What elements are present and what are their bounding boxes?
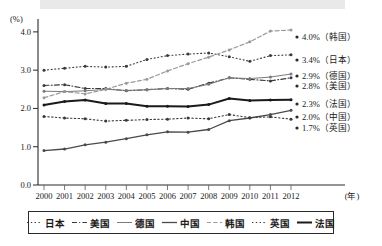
data-point-france [248, 99, 251, 102]
data-point-germany [125, 89, 128, 92]
x-tick-label: 2011 [262, 191, 279, 201]
x-tick-label: 2003 [97, 191, 114, 201]
data-point-japan [248, 60, 251, 63]
data-point-france [145, 105, 148, 108]
data-point-france [104, 102, 107, 105]
data-point-china [104, 141, 107, 144]
legend-item-label: 中国 [180, 216, 200, 230]
legend-item-美国[interactable]: 美国 [72, 216, 110, 230]
data-point-japan [145, 58, 148, 61]
data-point-japan [228, 55, 231, 58]
legend-item-中国[interactable]: 中国 [162, 216, 200, 230]
x-tick-label: 2002 [77, 191, 94, 201]
data-point-japan [207, 51, 210, 54]
series-lines [43, 28, 293, 152]
data-point-usa [269, 79, 272, 82]
line-chart: 4.0%（韩国）3.4%（日本）2.9%（德国）2.8%（美国）2.3%（法国）… [0, 0, 382, 246]
legend-item-英国[interactable]: 英国 [252, 216, 290, 230]
x-tick-label: 2006 [159, 191, 176, 201]
data-point-germany [269, 76, 272, 79]
data-point-japan [84, 65, 87, 68]
data-point-germany [145, 88, 148, 91]
legend-item-label: 美国 [90, 216, 110, 230]
data-point-uk [228, 113, 231, 116]
data-point-korea [145, 78, 148, 81]
legend-item-韩国[interactable]: 韩国 [207, 216, 245, 230]
data-point-uk [43, 115, 46, 118]
x-tick-label: 2000 [36, 191, 53, 201]
end-label: 2.3%（法国） [302, 98, 356, 109]
data-point-uk [269, 115, 272, 118]
data-point-korea [248, 40, 251, 43]
data-point-japan [43, 69, 46, 72]
x-tick-label: 2001 [56, 191, 73, 201]
data-point-germany [84, 89, 87, 92]
data-point-germany [187, 87, 190, 90]
end-label-marker [295, 126, 298, 129]
data-point-china [63, 148, 66, 151]
legend-item-法国[interactable]: 法国 [297, 216, 335, 230]
data-point-france [43, 104, 46, 107]
data-point-korea [187, 62, 190, 65]
data-point-germany [228, 76, 231, 79]
legend-item-日本[interactable]: 日本 [27, 216, 65, 230]
y-tick-label: 0.0 [20, 180, 31, 190]
end-label: 2.0%（中国） [302, 111, 356, 122]
data-point-china [145, 133, 148, 136]
data-point-france [207, 103, 210, 106]
data-point-japan [187, 53, 190, 56]
legend-swatch-dotted [252, 218, 267, 227]
x-tick-label: 2008 [200, 191, 217, 201]
data-point-china [187, 131, 190, 134]
data-point-germany [166, 87, 169, 90]
x-tick-label: 2005 [138, 191, 155, 201]
x-tick-label: 2007 [180, 191, 197, 201]
data-point-korea [104, 88, 107, 91]
legend-item-label: 英国 [270, 216, 290, 230]
data-point-china [125, 137, 128, 140]
data-point-korea [43, 96, 46, 99]
data-point-korea [125, 82, 128, 85]
data-point-china [43, 149, 46, 152]
y-tick-label: 2.0 [20, 103, 31, 113]
data-point-france [84, 99, 87, 102]
data-point-korea [63, 90, 66, 93]
data-point-germany [43, 90, 46, 93]
x-tick-label: 2012 [283, 191, 300, 201]
data-point-china [207, 128, 210, 131]
end-label-marker [295, 58, 298, 61]
data-point-uk [63, 117, 66, 120]
legend-item-label: 德国 [135, 216, 155, 230]
legend-swatch-dotted [27, 218, 42, 227]
legend-swatch-solid-thin [117, 218, 132, 227]
end-label: 1.7%（英国） [302, 122, 356, 133]
data-point-uk [187, 117, 190, 120]
data-point-usa [43, 84, 46, 87]
data-point-germany [248, 77, 251, 80]
data-point-korea [84, 92, 87, 95]
data-point-china [290, 109, 293, 112]
data-point-china [228, 119, 231, 122]
x-tick-label: 2004 [118, 191, 136, 201]
data-point-uk [84, 117, 87, 120]
legend: 日本美国德国中国韩国英国法国 [28, 211, 334, 234]
data-point-korea [166, 69, 169, 72]
y-tick-label: 4.0 [20, 27, 31, 37]
data-point-japan [166, 54, 169, 57]
data-point-uk [145, 118, 148, 121]
data-point-france [125, 102, 128, 105]
legend-swatch-solid-thick [297, 218, 312, 227]
data-point-japan [104, 66, 107, 69]
end-label: 2.9%（德国） [302, 70, 356, 81]
legend-item-label: 日本 [45, 216, 65, 230]
end-label: 4.0%（韩国） [302, 31, 356, 42]
data-point-china [84, 143, 87, 146]
x-axis-unit-label: (年) [345, 191, 360, 201]
data-point-korea [290, 28, 293, 31]
data-point-france [290, 98, 293, 101]
data-point-uk [166, 118, 169, 121]
legend-item-德国[interactable]: 德国 [117, 216, 155, 230]
end-label-marker [295, 115, 298, 118]
data-point-korea [269, 30, 272, 33]
data-point-germany [207, 83, 210, 86]
